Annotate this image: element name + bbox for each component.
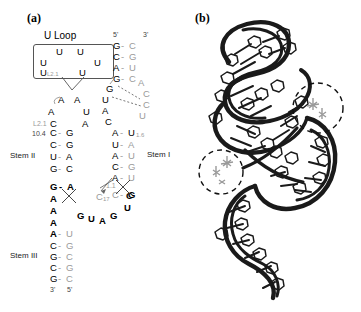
stem1-three-prime-label: 3' (143, 31, 148, 39)
panel-b: (b) (185, 0, 361, 312)
stem2-bond: - (58, 152, 61, 162)
stem1-left-bulge-base: U (102, 95, 109, 105)
stem2-right-base: G (66, 140, 73, 150)
stem1-right-base: U (129, 63, 136, 73)
uloop-base: U (77, 47, 84, 57)
stem1-label: Stem I (147, 151, 170, 159)
stem2-left-base: C (50, 140, 57, 150)
stem2-loop-base: A (48, 107, 54, 117)
junction-base: U (88, 214, 95, 224)
junction-right-base: C (126, 191, 133, 201)
stem3-bulge-base: A (50, 194, 57, 204)
stem1-left-base: C (112, 190, 119, 200)
stem1-bond: - (121, 74, 124, 84)
stem1-left-base: A (112, 151, 118, 161)
uloop-base: U (40, 68, 47, 78)
uloop-title: U Loop (44, 30, 76, 41)
stem1-left-base: A (113, 63, 119, 73)
stem1-loop-base: U (139, 111, 146, 121)
stem1-loop-base: C (143, 89, 150, 99)
stem1-right-base: U (128, 128, 135, 138)
panel-a-label: (a) (27, 11, 41, 26)
stem2-bond: - (59, 182, 62, 192)
stem3-left-base: C (50, 263, 57, 273)
stem1-bond: - (120, 173, 123, 183)
stem2-loop-base: A (58, 95, 64, 105)
stem1-right-base: C (129, 74, 136, 84)
stem1-loop-base: C (143, 100, 150, 110)
stem3-left-base: G (50, 274, 57, 284)
stem2-left-base: C (50, 128, 57, 138)
stem2-bond: - (58, 164, 61, 174)
label-1-6: 1.6 (136, 132, 144, 138)
stem1-right-base: G (129, 52, 136, 62)
junction-base: G (77, 211, 84, 221)
label-c17-subscript: 17 (103, 196, 110, 202)
stem3-bond: - (58, 229, 61, 239)
stem3-right-base: C (66, 252, 73, 262)
stem1-bond: - (120, 128, 123, 138)
label-l2-1: L2.1 (33, 120, 47, 128)
stem2-left-base: U (50, 152, 57, 162)
stem3-bond: - (58, 274, 61, 284)
stem3-label: Stem III (10, 252, 38, 260)
stem1-left-bulge-base: C (105, 117, 112, 127)
stem3-left-base: C (50, 241, 57, 251)
figure-root: (a) U Loop U U U U U L2.1 U A A A U C A … (0, 0, 361, 312)
stem1-bond: - (121, 41, 124, 51)
stem2-left-base: G (50, 164, 57, 174)
stem2-right-base: C (66, 164, 73, 174)
stem1-left-bulge-base: G (106, 84, 113, 94)
uloop-base: U (94, 58, 101, 68)
stem3-right-base: G (66, 263, 73, 273)
stem2-label: Stem II (10, 152, 35, 160)
stem2-bond: - (58, 140, 61, 150)
stem3-right-base: U (66, 229, 73, 239)
stem1-right-base: G (128, 162, 135, 172)
junction-right-base: U (124, 203, 131, 213)
stem2-bond: - (58, 128, 61, 138)
stem1-right-base: U (128, 173, 135, 183)
label-10-4: 10.4 (32, 130, 46, 138)
label-1-1: 1.1 (106, 182, 116, 190)
stem1-bond: - (121, 52, 124, 62)
stem3-left-base: A (50, 229, 57, 239)
stem2-loop-base: A (74, 95, 80, 105)
stem3-three-prime-label: 3' (50, 286, 55, 294)
stem3-left-base: G (50, 252, 57, 262)
stem1-left-base: G (113, 74, 120, 84)
stem2-loop-base: A (82, 119, 88, 129)
stem1-left-base: A (112, 128, 118, 138)
stem1-left-base: G (113, 41, 120, 51)
rna-3d-ribbon-diagram (185, 0, 361, 312)
label-c17: C (96, 192, 103, 202)
stem3-bond: - (58, 252, 61, 262)
uloop-base: U (79, 68, 86, 78)
stem3-bulge-base: A (50, 206, 57, 216)
uloop-subscript: L2.1 (47, 71, 59, 77)
junction-base: G (110, 211, 117, 221)
stem1-bond: - (120, 140, 123, 150)
stem1-right-base: A (128, 140, 134, 150)
stem1-left-bulge-base: A (102, 106, 108, 116)
stem2-right-base: A (66, 152, 72, 162)
stem3-right-base: G (66, 241, 73, 251)
stem2-right-base: G (66, 128, 73, 138)
stem2-right-base: A (67, 182, 74, 192)
stem3-five-prime-label: 5' (67, 286, 72, 294)
stem1-right-base: U (128, 151, 135, 161)
stem1-bond: - (120, 190, 123, 200)
junction-base: A (99, 216, 106, 226)
highlight-circle-left (199, 150, 243, 194)
stem3-right-base: C (66, 274, 73, 284)
stem2-left-base: G (50, 182, 57, 192)
stem3-bond: - (58, 241, 61, 251)
stem1-bond: - (121, 63, 124, 73)
stem2-loop-base: U (83, 107, 90, 117)
stem1-loop-base: A (138, 78, 144, 88)
stem1-left-base: C (112, 162, 119, 172)
stem1-right-base: C (129, 41, 136, 51)
uloop-base: U (56, 47, 63, 57)
stem1-bond: - (120, 162, 123, 172)
stem3-bulge-base: A (50, 218, 57, 228)
